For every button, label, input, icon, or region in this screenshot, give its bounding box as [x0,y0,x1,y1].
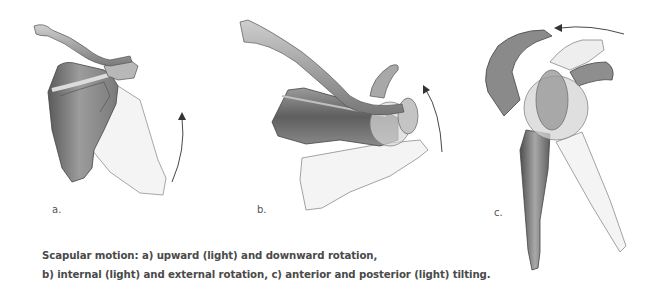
rotation-arrow [172,118,183,182]
caption-line-2: b) internal (light) and external rotatio… [42,265,491,284]
arrowhead-icon [554,24,562,32]
tilt-arrow [560,27,624,34]
panel-label-c: c. [494,207,503,218]
arrowhead-icon [178,112,186,120]
panel-label-a: a. [52,204,61,215]
rotation-arrow [426,90,442,152]
panel-a-scapula-upward-rotation [0,0,230,230]
arrowhead-icon [423,85,430,94]
scapula [520,130,550,270]
panel-label-b: b. [257,204,267,215]
clavicle [34,25,132,66]
panel-b-scapula-internal-external-rotation [230,0,460,230]
ghost-scapula [556,132,626,252]
figure-caption: Scapular motion: a) upward (light) and d… [42,246,491,284]
ghost-scapula [300,140,428,210]
caption-line-1: Scapular motion: a) upward (light) and d… [42,246,491,265]
